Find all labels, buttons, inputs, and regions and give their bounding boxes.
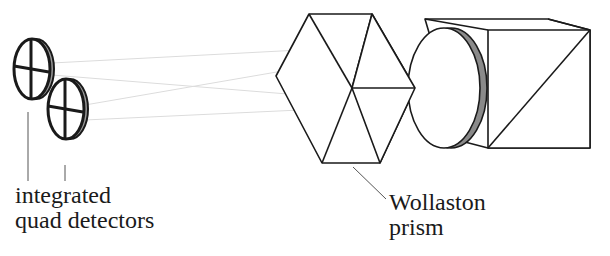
quad-detector-2 [48, 79, 88, 139]
prism-label: Wollaston prism [389, 190, 486, 240]
prism-label-line1: Wollaston [389, 190, 486, 215]
detectors-label: integrated quad detectors [15, 183, 154, 233]
quad-detector-1 [14, 39, 54, 99]
detectors-label-line1: integrated [15, 183, 154, 208]
detectors-label-line2: quad detectors [15, 208, 154, 233]
lens-disc [408, 28, 487, 148]
prism-leader-line [353, 167, 386, 199]
light-beams [52, 50, 300, 120]
prism-label-line2: prism [389, 215, 486, 240]
optical-diagram: integrated quad detectors Wollaston pris… [0, 0, 610, 256]
